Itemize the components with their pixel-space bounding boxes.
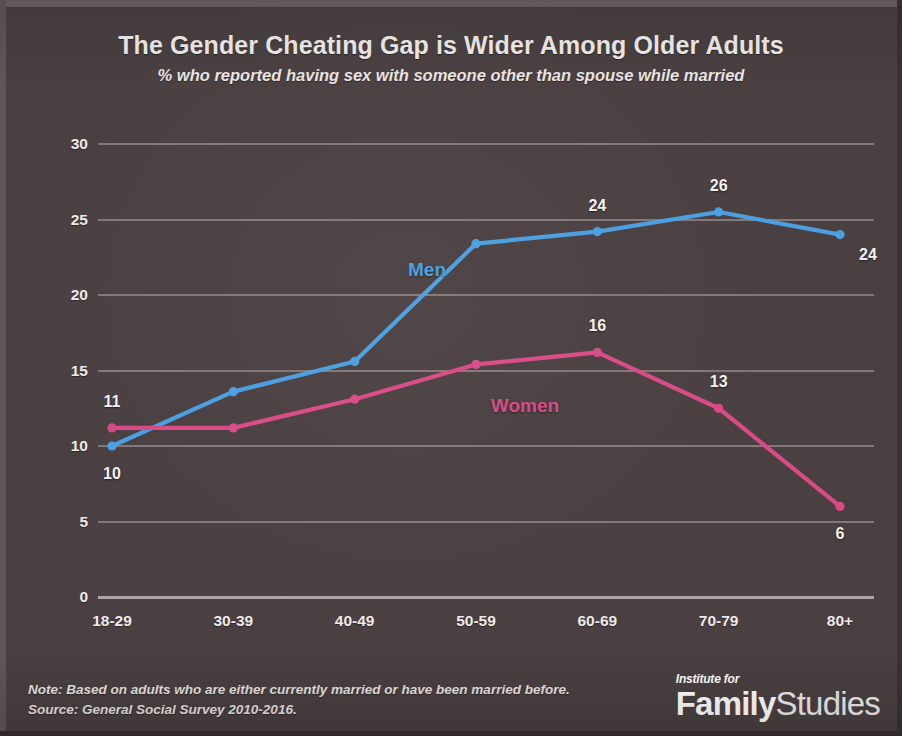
series-line-women <box>112 352 840 506</box>
data-point-women-70-79 <box>714 404 723 413</box>
series-label-men: Men <box>408 259 446 281</box>
data-point-women-60-69 <box>593 348 602 357</box>
plot-area: 051015202530 18-2930-3940-4950-5960-6970… <box>0 0 902 736</box>
value-label-men-60-69: 24 <box>588 197 606 215</box>
value-label-men-80+: 24 <box>859 246 877 264</box>
data-point-women-80+ <box>835 502 844 511</box>
data-point-men-30-39 <box>229 387 238 396</box>
data-point-women-40-49 <box>350 395 359 404</box>
footer-source-line: Source: General Social Survey 2010-2016. <box>28 700 628 720</box>
series-label-women: Women <box>491 395 559 417</box>
data-point-men-40-49 <box>350 357 359 366</box>
data-point-women-30-39 <box>229 423 238 432</box>
value-label-men-18-29: 10 <box>103 465 121 483</box>
data-point-women-50-59 <box>471 360 480 369</box>
logo-word-family: Family <box>676 685 776 722</box>
logo-word-studies: Studies <box>776 685 880 722</box>
value-label-women-18-29: 11 <box>104 393 121 411</box>
chart-image: The Gender Cheating Gap is Wider Among O… <box>0 0 902 736</box>
footer-note: Note: Based on adults who are either cur… <box>28 680 628 720</box>
data-point-men-80+ <box>835 230 844 239</box>
data-point-women-18-29 <box>107 423 116 432</box>
value-label-men-70-79: 26 <box>710 177 728 195</box>
value-label-women-60-69: 16 <box>588 317 606 335</box>
value-label-women-70-79: 13 <box>710 373 728 391</box>
series-layer <box>0 0 902 736</box>
logo-kicker: Institute for <box>676 672 880 686</box>
data-point-men-18-29 <box>107 441 116 450</box>
footer-note-line: Note: Based on adults who are either cur… <box>28 680 628 700</box>
data-point-men-70-79 <box>714 207 723 216</box>
logo-wordmark: FamilyStudies <box>676 686 880 722</box>
value-label-women-80+: 6 <box>836 525 845 543</box>
institute-for-family-studies-logo: Institute for FamilyStudies <box>676 672 880 722</box>
data-point-men-50-59 <box>471 239 480 248</box>
data-point-men-60-69 <box>593 227 602 236</box>
